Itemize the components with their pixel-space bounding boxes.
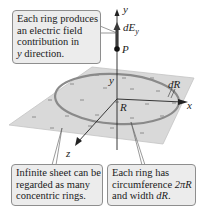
callout-text: . <box>168 190 171 201</box>
callout-ring-dimensions: Each ring has circumference 2πR and widt… <box>107 164 196 206</box>
callout-infinite-sheet: Infinite sheet can be regarded as many c… <box>11 164 103 206</box>
callout-line: circumference 2πR <box>112 179 191 191</box>
callout-line: regarded as many <box>16 179 98 191</box>
math-circumference: 2πR <box>175 179 192 190</box>
point-p <box>114 46 120 52</box>
infinite-sheet <box>9 67 194 144</box>
y-axis-arrowhead <box>115 9 120 16</box>
y-axis-label: y <box>122 3 128 15</box>
callout-line: concentric rings. <box>16 190 98 202</box>
radius-label: R <box>119 101 127 113</box>
z-axis-label: z <box>65 147 71 159</box>
math-dr: dR <box>156 190 168 201</box>
callout-text: direction. <box>22 48 65 59</box>
callout-line: Each ring has <box>112 167 191 179</box>
callout-text: circumference <box>112 179 175 190</box>
callout-line: Each ring produces <box>17 13 96 25</box>
callout-text: and width <box>112 190 156 201</box>
callout-line: an electric field <box>17 25 96 37</box>
point-p-label: P <box>121 43 129 55</box>
ring-width-label: dR <box>168 78 181 90</box>
field-label: dEy <box>123 21 139 36</box>
callout-line: and width dR. <box>112 190 191 202</box>
callout-line: y direction. <box>17 48 96 60</box>
callout-line: Infinite sheet can be <box>16 167 98 179</box>
ring-y-label: y <box>108 74 114 86</box>
x-axis-label: x <box>186 99 192 111</box>
callout-ring-field: Each ring produces an electric field con… <box>12 10 101 64</box>
field-vector-arrowhead <box>114 22 121 30</box>
callout-line: contribution in <box>17 36 96 48</box>
